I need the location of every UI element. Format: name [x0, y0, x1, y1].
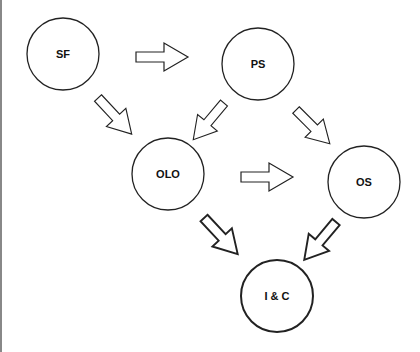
- node-olo-label: OLO: [156, 168, 180, 180]
- node-os: OS: [328, 146, 400, 218]
- arrow-os-to-ic: [294, 213, 346, 268]
- node-ic: I & C: [241, 260, 313, 332]
- node-olo: OLO: [132, 138, 204, 210]
- arrow-olo-to-os: [241, 163, 293, 191]
- node-ic-label: I & C: [264, 290, 289, 302]
- arrow-ps-to-olo: [183, 95, 233, 148]
- arrow-sf-to-ps: [136, 43, 188, 71]
- arrow-ps-to-os: [287, 101, 339, 153]
- node-sf-label: SF: [56, 48, 70, 60]
- node-ps-label: PS: [251, 58, 266, 70]
- flow-diagram: SF PS OLO OS I & C: [0, 0, 420, 352]
- node-os-label: OS: [356, 176, 372, 188]
- node-ps: PS: [222, 28, 294, 100]
- node-sf: SF: [27, 18, 99, 90]
- arrow-sf-to-olo: [88, 89, 141, 143]
- arrow-olo-to-ic: [194, 209, 247, 263]
